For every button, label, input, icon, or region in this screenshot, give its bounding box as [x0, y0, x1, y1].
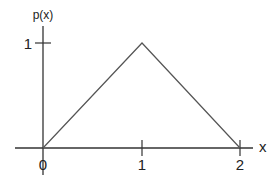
- y-tick-label-1: 1: [24, 35, 32, 52]
- density-curve: [43, 43, 240, 148]
- y-axis-label: p(x): [33, 8, 54, 22]
- x-tick-label-2: 2: [236, 156, 244, 173]
- triangular-distribution-chart: p(x) x 0 1 2 1: [0, 0, 278, 182]
- x-tick-label-0: 0: [39, 156, 47, 173]
- x-axis-label: x: [259, 138, 267, 155]
- x-tick-label-1: 1: [138, 156, 146, 173]
